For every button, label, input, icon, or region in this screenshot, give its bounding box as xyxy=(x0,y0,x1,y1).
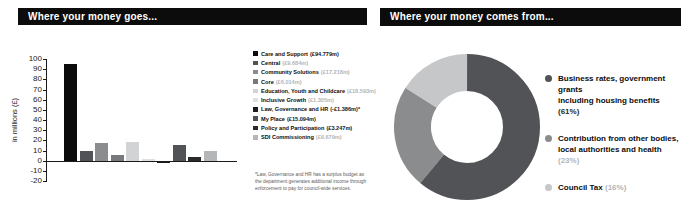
legend-value: (£1.305m) xyxy=(308,97,334,103)
budget-infographic: Where your money goes... Where your mone… xyxy=(0,0,684,206)
donut-legend-item-1: Contribution from other bodies,local aut… xyxy=(545,133,681,166)
legend-swatch xyxy=(253,79,258,84)
bar-5 xyxy=(142,159,155,160)
legend-text: Business rates, government grantsincludi… xyxy=(558,73,681,117)
y-tick-label: 10 xyxy=(22,147,42,155)
y-tick-mark xyxy=(43,110,47,111)
legend-label: Education, Youth and Childcare xyxy=(261,88,345,94)
legend-swatch xyxy=(253,70,258,75)
y-tick-mark xyxy=(43,100,47,101)
legend-value: (£6.014m) xyxy=(276,79,302,85)
y-tick-label: 40 xyxy=(22,116,42,124)
donut-legend-item-0: Business rates, government grantsincludi… xyxy=(545,73,681,117)
donut-chart xyxy=(392,52,542,202)
legend-swatch xyxy=(253,98,258,103)
legend-footnote: *Law, Governance and HR has a surplus bu… xyxy=(255,172,369,193)
legend-swatch xyxy=(253,89,258,94)
y-tick-label: -20 xyxy=(22,177,42,185)
legend-item-2: Community Solutions(£17.218m) xyxy=(253,68,378,77)
y-tick-mark xyxy=(43,69,47,70)
y-tick-label: -10 xyxy=(22,167,42,175)
legend-item-4: Education, Youth and Childcare(£18.593m) xyxy=(253,86,378,95)
legend-label: Community Solutions xyxy=(261,69,319,75)
left-panel-title: Where your money goes... xyxy=(18,8,367,25)
legend-value: (£9.679m) xyxy=(316,134,342,140)
legend-bullet xyxy=(545,184,552,191)
legend-bullet xyxy=(545,75,552,82)
bar-2 xyxy=(95,143,108,161)
donut-legend-item-2: Council Tax (16%) xyxy=(545,182,681,193)
legend-item-1: Central(£9.684m) xyxy=(253,58,378,67)
bar-8 xyxy=(188,157,201,160)
bar-chart-y-axis-label: in millions (£) xyxy=(8,59,20,181)
legend-label: My Place xyxy=(261,116,285,122)
bar-chart-legend: Care and Support(£94.779m)Central(£9.684… xyxy=(253,49,378,142)
legend-swatch xyxy=(253,61,258,66)
y-tick-label: 100 xyxy=(22,55,42,63)
legend-label: Policy and Participation xyxy=(261,125,324,131)
y-tick-mark xyxy=(43,120,47,121)
legend-value: (£94.779m) xyxy=(310,51,339,57)
legend-value: (£9.684m) xyxy=(282,60,308,66)
y-tick-mark xyxy=(43,130,47,131)
bar-9 xyxy=(204,151,217,161)
bar-7 xyxy=(173,145,186,160)
donut-chart-svg xyxy=(392,52,542,202)
legend-label: Central xyxy=(261,60,280,66)
legend-swatch xyxy=(253,116,258,121)
legend-label: Core xyxy=(261,79,274,85)
bar-1 xyxy=(80,151,93,161)
legend-label: Inclusive Growth xyxy=(261,97,306,103)
legend-item-7: My Place(£15.094m) xyxy=(253,114,378,123)
legend-text: Council Tax (16%) xyxy=(558,182,681,193)
bar-3 xyxy=(111,155,124,161)
legend-percentage: (16%) xyxy=(605,183,626,192)
legend-item-8: Policy and Participation(£3.247m) xyxy=(253,123,378,132)
donut-chart-legend: Business rates, government grantsincludi… xyxy=(545,73,681,206)
y-tick-label: 50 xyxy=(22,106,42,114)
legend-label: SDI Commissioning xyxy=(261,134,314,140)
bar-0 xyxy=(64,64,77,160)
legend-item-6: Law, Governance and HR(-£1.386m)* xyxy=(253,105,378,114)
y-tick-label: 80 xyxy=(22,75,42,83)
legend-bullet xyxy=(545,135,552,142)
x-axis-zero-line xyxy=(47,161,237,162)
y-tick-mark xyxy=(43,59,47,60)
y-tick-label: 70 xyxy=(22,86,42,94)
bar-4 xyxy=(126,142,139,161)
y-tick-label: 0 xyxy=(22,157,42,165)
bar-6 xyxy=(157,162,170,163)
legend-text: Contribution from other bodies,local aut… xyxy=(558,133,681,166)
y-tick-label: 60 xyxy=(22,96,42,104)
legend-swatch xyxy=(253,126,258,131)
legend-swatch xyxy=(253,51,258,56)
y-tick-label: 90 xyxy=(22,65,42,73)
y-tick-mark xyxy=(43,90,47,91)
legend-value: (£18.593m) xyxy=(347,88,376,94)
legend-item-0: Care and Support(£94.779m) xyxy=(253,49,378,58)
y-tick-mark xyxy=(43,171,47,172)
y-tick-mark xyxy=(43,79,47,80)
legend-percentage: (61%) xyxy=(558,107,579,116)
legend-item-9: SDI Commissioning(£9.679m) xyxy=(253,133,378,142)
legend-percentage: (23%) xyxy=(558,156,579,165)
legend-item-3: Core(£6.014m) xyxy=(253,77,378,86)
legend-value: (£17.218m) xyxy=(321,69,350,75)
legend-value: (£15.094m) xyxy=(287,116,316,122)
legend-label: Care and Support xyxy=(261,51,308,57)
legend-value: (£3.247m) xyxy=(326,125,352,131)
bar-plot xyxy=(46,59,236,181)
y-tick-mark xyxy=(43,140,47,141)
legend-value: (-£1.386m)* xyxy=(330,106,360,112)
legend-item-5: Inclusive Growth(£1.305m) xyxy=(253,95,378,104)
legend-swatch xyxy=(253,135,258,140)
y-tick-mark xyxy=(43,181,47,182)
y-tick-label: 30 xyxy=(22,126,42,134)
y-tick-mark xyxy=(43,151,47,152)
y-tick-label: 20 xyxy=(22,136,42,144)
right-panel-title: Where your money comes from... xyxy=(380,8,681,26)
bar-chart-y-axis-ticks: 1009080706050403020100-10-20 xyxy=(22,59,42,181)
legend-swatch xyxy=(253,107,258,112)
legend-label: Law, Governance and HR xyxy=(261,106,328,112)
